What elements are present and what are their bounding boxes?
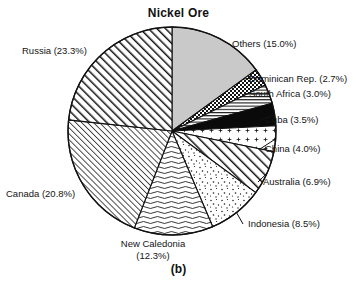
pie-slices [68,27,276,235]
slice-label-others: Others (15.0%) [232,38,296,49]
slice-label-cuba: Cuba (3.5%) [265,114,318,125]
slice-label-new-caledonia: New Caledonia(12.3%) [98,238,208,261]
slice-label-russia: Russia (23.3%) [22,45,87,56]
pie-slice-russia[interactable] [69,27,172,131]
slice-label-canada: Canada (20.8%) [6,188,75,199]
slice-label-china: China (4.0%) [265,143,320,154]
slice-label-australia: Australia (6.9%) [263,176,331,187]
figure-caption: (b) [0,262,357,276]
slice-label-south-africa: South Africa (3.0%) [249,88,331,99]
leader-line [237,213,243,224]
slice-label-line-2: (12.3%) [98,250,208,262]
slice-label-indonesia: Indonesia (8.5%) [248,218,320,229]
pie-chart-figure: Nickel Ore [0,0,357,290]
slice-label-dominican-rep: Dominican Rep. (2.7%) [249,73,347,84]
slice-label-line-1: New Caledonia [98,238,208,250]
